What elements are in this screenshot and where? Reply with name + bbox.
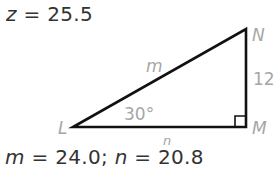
m-value: 24.0; bbox=[55, 145, 108, 169]
hypotenuse-label-m: m bbox=[146, 56, 163, 76]
vertex-l-label: L bbox=[58, 118, 67, 138]
answer-equation: m = 24.0; n = 20.8 bbox=[5, 145, 204, 169]
n-value: 20.8 bbox=[158, 145, 204, 169]
equals-sign-m: = bbox=[31, 145, 48, 169]
variable-n: n bbox=[115, 145, 128, 169]
variable-m: m bbox=[5, 145, 25, 169]
right-angle-marker bbox=[235, 116, 246, 127]
equals-sign-n: = bbox=[134, 145, 151, 169]
angle-label-30: 30° bbox=[124, 104, 154, 124]
triangle-lmn bbox=[73, 29, 246, 127]
vertex-m-label: M bbox=[252, 118, 267, 138]
vertex-n-label: N bbox=[252, 25, 265, 45]
side-label-12: 12 bbox=[253, 69, 274, 89]
